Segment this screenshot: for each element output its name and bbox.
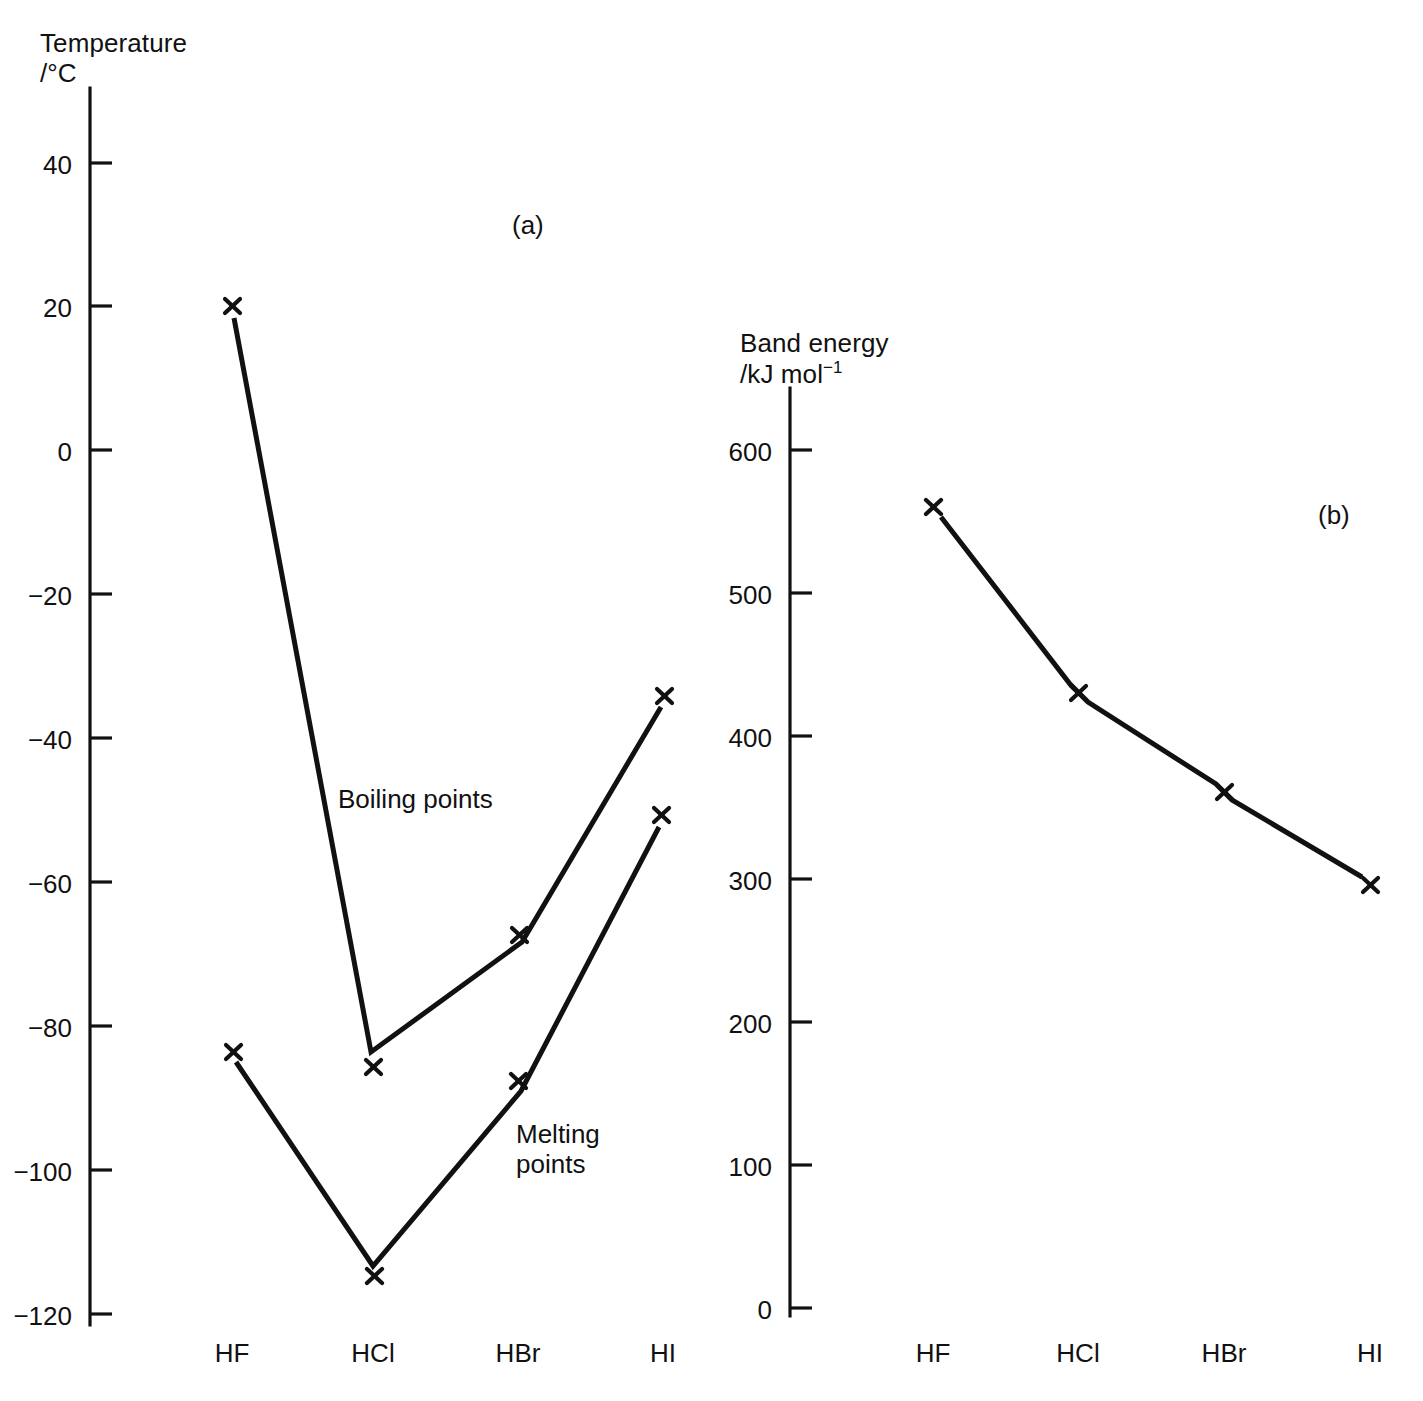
panel-b-xcat-hi: HI xyxy=(1330,1338,1410,1369)
panel-b-xcat-hcl: HCl xyxy=(1038,1338,1118,1369)
panel-b-axis-title-unit: /kJ mol xyxy=(740,359,823,389)
panel-a-ytick-n100: −100 xyxy=(0,1157,72,1188)
panel-a-ytick-n120: −120 xyxy=(0,1301,72,1332)
panel-b-xcat-hbr: HBr xyxy=(1184,1338,1264,1369)
panel-a-axis xyxy=(90,88,112,1325)
data-marker-boiling-hcl xyxy=(366,1060,381,1074)
panel-a-xcat-hcl: HCl xyxy=(333,1338,413,1369)
panel-b-ytick-100: 100 xyxy=(700,1152,772,1183)
panel-b-label: (b) xyxy=(1318,500,1350,531)
panel-a-ytick-0: 0 xyxy=(0,437,72,468)
panel-a-boiling-series xyxy=(225,299,672,1074)
panel-a-label: (a) xyxy=(512,210,544,241)
panel-a-ytick-n20: −20 xyxy=(0,581,72,612)
data-marker-energy-hcl xyxy=(1071,686,1086,700)
panel-b-xcat-hf: HF xyxy=(893,1338,973,1369)
data-marker-melting-hi xyxy=(654,808,669,822)
panel-b-ytick-500: 500 xyxy=(700,580,772,611)
panel-b-axis xyxy=(790,388,812,1316)
panel-b-ytick-300: 300 xyxy=(700,866,772,897)
panel-b-ytick-200: 200 xyxy=(700,1009,772,1040)
panel-a-axis-title-line1: Temperature xyxy=(40,28,187,59)
panel-b-bond-energy-series xyxy=(926,500,1378,892)
data-marker-boiling-hf xyxy=(225,299,240,313)
series-label-melting-line2: points xyxy=(516,1150,585,1180)
panel-a-ytick-n60: −60 xyxy=(0,869,72,900)
panel-a-ytick-20: 20 xyxy=(0,293,72,324)
panel-a-xcat-hi: HI xyxy=(623,1338,703,1369)
plot-canvas xyxy=(0,0,1423,1401)
series-label-melting-line1: Melting xyxy=(516,1120,600,1150)
panel-b-ytick-600: 600 xyxy=(700,437,772,468)
panel-b-axis-title-line1: Band energy xyxy=(740,328,889,359)
panel-b-ytick-0: 0 xyxy=(700,1295,772,1326)
data-marker-melting-hf xyxy=(226,1045,241,1059)
panel-a-melting-series xyxy=(226,808,669,1283)
data-marker-energy-hf xyxy=(926,500,941,514)
panel-a-ytick-40: 40 xyxy=(0,150,72,181)
panel-b-ytick-400: 400 xyxy=(700,723,772,754)
panel-a-xcat-hf: HF xyxy=(192,1338,272,1369)
data-marker-melting-hcl xyxy=(367,1269,382,1283)
panel-a-ytick-n80: −80 xyxy=(0,1013,72,1044)
panel-b-axis-title-line2: /kJ mol−1 xyxy=(740,358,842,389)
panel-a-axis-title-line2: /°C xyxy=(40,58,77,89)
panel-a-ytick-n40: −40 xyxy=(0,725,72,756)
series-label-boiling: Boiling points xyxy=(338,785,493,815)
data-marker-energy-hi xyxy=(1363,878,1378,892)
figure-root: Temperature /°C (a) 40 20 0 −20 −40 −60 … xyxy=(0,0,1423,1401)
panel-a-xcat-hbr: HBr xyxy=(478,1338,558,1369)
data-marker-boiling-hi xyxy=(657,689,672,703)
data-marker-energy-hbr xyxy=(1217,785,1232,799)
panel-b-axis-title-superscript: −1 xyxy=(823,358,842,377)
